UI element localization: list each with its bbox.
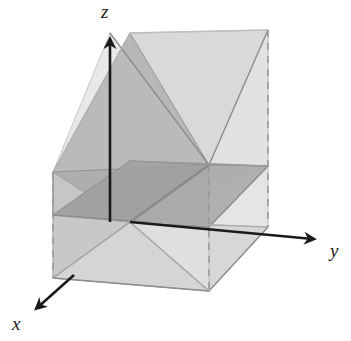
figure-canvas: z y x [0, 0, 351, 341]
axis-label-x: x [12, 314, 20, 333]
x-axis-line [37, 275, 74, 308]
axis-label-y: y [330, 241, 338, 260]
planes-group [53, 30, 268, 291]
axis-label-z: z [101, 2, 108, 21]
three-d-plane-diagram [0, 0, 351, 341]
